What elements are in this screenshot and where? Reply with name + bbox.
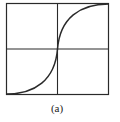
figure-caption: (a) — [0, 102, 114, 114]
